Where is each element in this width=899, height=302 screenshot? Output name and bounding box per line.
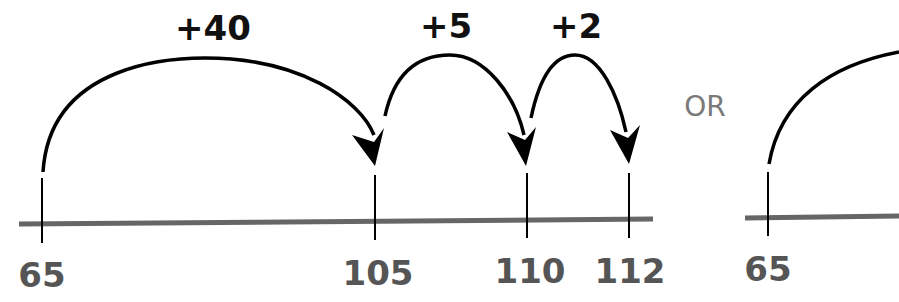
right-number-line: 65	[744, 52, 899, 289]
number-line-diagram: +40 +5 +2 65 105 110 112 OR 65	[0, 0, 899, 302]
jump-label-plus-5: +5	[420, 6, 472, 46]
tick-label-65: 65	[18, 255, 65, 295]
number-line-axis	[19, 219, 653, 224]
jump-arc-plus-2	[531, 55, 626, 132]
tick-label-65: 65	[744, 249, 791, 289]
jump-arc-plus-40	[43, 58, 374, 172]
tick-label-105: 105	[343, 253, 414, 293]
arrowhead-icon	[507, 127, 536, 166]
jump-label-plus-40: +40	[175, 8, 251, 48]
or-separator: OR	[684, 90, 726, 123]
jump-label-plus-2: +2	[550, 6, 602, 46]
jump-arc-plus-5	[385, 55, 524, 135]
jump-arc-partial	[769, 52, 899, 164]
tick-label-110: 110	[495, 251, 566, 291]
arrowhead-icon	[352, 128, 384, 166]
tick-label-112: 112	[595, 251, 666, 291]
left-number-line: +40 +5 +2 65 105 110 112	[18, 6, 665, 295]
